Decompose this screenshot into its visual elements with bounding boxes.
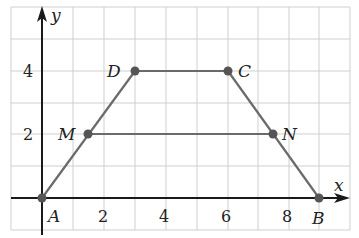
x-tick-4: 4 — [159, 207, 169, 226]
label-C: C — [238, 61, 251, 81]
label-D: D — [106, 61, 121, 81]
y-tick-4: 4 — [23, 62, 33, 81]
label-B: B — [311, 208, 325, 228]
x-tick-6: 6 — [221, 207, 231, 226]
y-axis-label: y — [50, 5, 61, 25]
point-A — [38, 194, 47, 203]
point-D — [131, 67, 140, 76]
point-N — [269, 130, 278, 139]
point-B — [315, 194, 324, 203]
x-tick-2: 2 — [98, 207, 108, 226]
point-C — [224, 67, 233, 76]
grid — [11, 7, 350, 230]
axes — [11, 6, 350, 235]
x-axis-label: x — [334, 175, 344, 195]
x-tick-8: 8 — [282, 207, 292, 226]
point-M — [84, 130, 93, 139]
y-tick-2: 2 — [23, 125, 33, 144]
label-N: N — [281, 124, 298, 144]
coordinate-plane: x y 2 4 6 8 2 4 A B C D M N — [0, 0, 359, 238]
label-A: A — [46, 206, 60, 226]
label-M: M — [57, 124, 76, 144]
